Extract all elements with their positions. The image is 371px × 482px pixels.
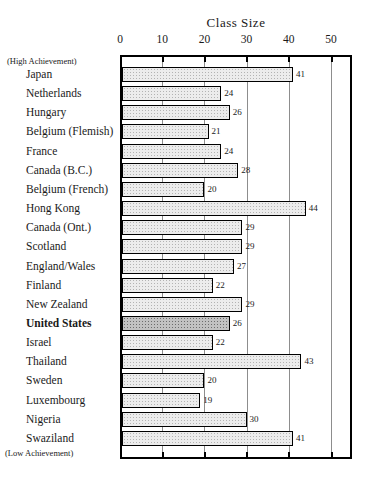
bar xyxy=(122,220,242,235)
bar xyxy=(122,335,213,350)
bar-value-label: 30 xyxy=(250,412,259,427)
tick-mark xyxy=(331,57,333,62)
bar-value-label: 29 xyxy=(245,297,254,312)
axis-tick-label: 10 xyxy=(147,33,177,45)
category-label: Japan xyxy=(26,65,52,84)
bar xyxy=(122,373,204,388)
bar-value-label: 29 xyxy=(245,239,254,254)
category-label: Canada (Ont.) xyxy=(26,218,91,237)
bar-value-label: 43 xyxy=(304,354,313,369)
tick-mark xyxy=(246,452,248,457)
bar-value-label: 29 xyxy=(245,220,254,235)
bar-value-label: 24 xyxy=(224,144,233,159)
bar-value-label: 20 xyxy=(207,182,216,197)
category-label: Belgium (French) xyxy=(26,180,108,199)
gridline xyxy=(289,57,290,457)
category-label: England/Wales xyxy=(26,257,95,276)
bar xyxy=(122,239,242,254)
category-label: Hong Kong xyxy=(26,199,80,218)
tick-mark xyxy=(162,57,164,62)
bar-value-label: 20 xyxy=(207,373,216,388)
gridline xyxy=(331,57,332,457)
bar xyxy=(122,431,293,446)
category-label: Hungary xyxy=(26,103,66,122)
category-label: Canada (B.C.) xyxy=(26,161,92,180)
category-label: New Zealand xyxy=(26,295,88,314)
tick-mark xyxy=(246,57,248,62)
bar xyxy=(122,412,247,427)
category-label: United States xyxy=(26,314,92,333)
bar-value-label: 22 xyxy=(216,278,225,293)
tick-mark xyxy=(288,452,290,457)
bar xyxy=(122,259,234,274)
tick-mark xyxy=(162,452,164,457)
category-label: Belgium (Flemish) xyxy=(26,122,113,141)
bar xyxy=(122,354,301,369)
category-label: Netherlands xyxy=(26,84,82,103)
class-size-chart: Class Size 01020304050 41242621242820442… xyxy=(0,0,371,482)
axis-tick-label: 0 xyxy=(105,33,135,45)
tick-mark xyxy=(288,57,290,62)
bar xyxy=(122,297,242,312)
tick-mark xyxy=(204,452,206,457)
bar-value-label: 28 xyxy=(241,163,250,178)
gridline xyxy=(247,57,248,457)
bar-value-label: 22 xyxy=(216,335,225,350)
chart-title: Class Size xyxy=(120,15,352,31)
tick-mark xyxy=(204,57,206,62)
bar xyxy=(122,67,293,82)
category-label: Nigeria xyxy=(26,410,60,429)
bar xyxy=(122,182,204,197)
bar xyxy=(122,393,200,408)
axis-tick-label: 20 xyxy=(189,33,219,45)
bar-value-label: 21 xyxy=(212,124,221,139)
bar-value-label: 27 xyxy=(237,259,246,274)
bar-value-label: 24 xyxy=(224,86,233,101)
axis-tick-label: 50 xyxy=(316,33,346,45)
bar-value-label: 26 xyxy=(233,105,242,120)
axis-tick-label: 40 xyxy=(274,33,304,45)
axis-tick-label: 30 xyxy=(232,33,262,45)
high-achievement-label: (High Achievement) xyxy=(7,56,77,66)
bar xyxy=(122,163,238,178)
category-label: Luxembourg xyxy=(26,391,85,410)
low-achievement-label: (Low Achievement) xyxy=(5,448,73,458)
category-label: France xyxy=(26,142,57,161)
category-label: Thailand xyxy=(26,352,67,371)
category-label: Israel xyxy=(26,333,52,352)
category-label: Swaziland xyxy=(26,429,74,448)
category-label: Scotland xyxy=(26,237,66,256)
bar xyxy=(122,144,221,159)
bar xyxy=(122,86,221,101)
bar-value-label: 19 xyxy=(203,393,212,408)
bar-value-label: 44 xyxy=(309,201,318,216)
category-label: Finland xyxy=(26,276,61,295)
bar-value-label: 41 xyxy=(296,67,305,82)
bar-highlighted xyxy=(122,316,230,331)
tick-mark xyxy=(331,452,333,457)
bar xyxy=(122,201,306,216)
category-label: Sweden xyxy=(26,371,62,390)
bar-value-label: 41 xyxy=(296,431,305,446)
bar-value-label: 26 xyxy=(233,316,242,331)
bar xyxy=(122,105,230,120)
bar xyxy=(122,278,213,293)
bar xyxy=(122,124,209,139)
